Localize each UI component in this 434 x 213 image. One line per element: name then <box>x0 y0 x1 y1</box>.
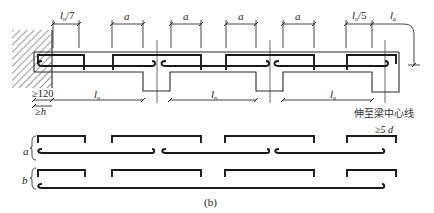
group-b-label: b <box>22 174 28 186</box>
dim-a-2: a <box>183 10 189 22</box>
top-dimensions <box>51 20 420 67</box>
dim-hook-5d: ≥5 d <box>375 124 394 135</box>
bar-group-a: a <box>23 136 396 160</box>
dim-support-120: ≥120 <box>32 88 54 99</box>
dim-la: la <box>390 9 396 22</box>
annotation-extend-to-beam-center: 伸至梁中心线 <box>354 107 414 119</box>
group-a-label: a <box>23 145 29 157</box>
figure-caption: (b) <box>204 196 217 209</box>
slab-reinforcement-diagram: ln/7 a a a a ln/5 la ≥120 ≥h ln ln ln 伸至… <box>0 0 434 213</box>
dim-ln-over-7: ln/7 <box>60 9 75 22</box>
brace-a <box>30 136 36 160</box>
dim-a-3: a <box>238 10 244 22</box>
slab-reinforcement <box>38 55 396 70</box>
dim-span-ln-1: ln <box>94 88 100 101</box>
dim-a-1: a <box>124 10 130 22</box>
brace-b <box>30 168 36 189</box>
wall-support <box>12 30 52 88</box>
dim-span-ln-2: ln <box>211 88 217 101</box>
dim-span-ln-3: ln <box>330 88 336 101</box>
dim-ln-over-5: ln/5 <box>352 9 367 22</box>
span-dimensions: ≥120 ≥h ln ln ln <box>32 88 374 117</box>
bar-group-b: b <box>22 168 396 189</box>
dim-support-h: ≥h <box>35 106 46 117</box>
dim-a-4: a <box>295 10 301 22</box>
slab-and-beam-outline <box>34 52 399 92</box>
